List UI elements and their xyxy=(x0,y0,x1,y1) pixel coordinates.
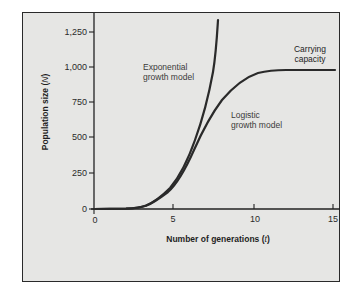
y-tick-750: 750 xyxy=(72,97,87,107)
logistic-growth-curve xyxy=(94,70,335,209)
x-tick-0: 0 xyxy=(92,215,97,225)
x-tick-10: 10 xyxy=(250,214,260,224)
exponential-label: Exponential xyxy=(143,62,188,72)
x-tick-15: 15 xyxy=(328,214,338,224)
population-growth-chart: 0 250 500 750 1,000 1,250 0 5 10 15 Numb… xyxy=(0,0,344,289)
carrying-capacity-label-line2: capacity xyxy=(294,54,326,64)
exponential-growth-curve xyxy=(94,20,218,209)
exponential-label-line2: growth model xyxy=(143,72,194,82)
y-axis-title: Population size (N) xyxy=(40,74,50,151)
logistic-label: Logistic xyxy=(231,110,261,120)
x-axis-title: Number of generations (t) xyxy=(166,234,270,244)
y-ticks xyxy=(89,32,94,209)
x-tick-5: 5 xyxy=(170,214,175,224)
logistic-label-line2: growth model xyxy=(231,120,282,130)
y-tick-250: 250 xyxy=(72,168,87,178)
y-tick-0: 0 xyxy=(82,204,87,214)
y-tick-1250: 1,250 xyxy=(64,27,87,37)
carrying-capacity-label: Carrying xyxy=(294,44,326,54)
y-tick-1000: 1,000 xyxy=(64,62,87,72)
y-tick-500: 500 xyxy=(72,132,87,142)
